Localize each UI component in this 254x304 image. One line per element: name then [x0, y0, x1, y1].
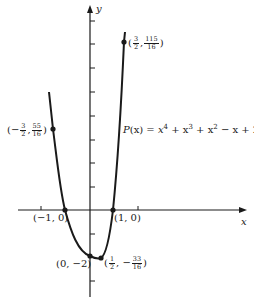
label-point-top: (32,11516) — [128, 36, 164, 50]
y-axis-arrow-icon — [87, 5, 93, 13]
point-top — [121, 39, 126, 44]
function-label: P(x) = x4 + x3 + x2 − x + 2 — [123, 124, 254, 135]
data-points — [50, 39, 126, 260]
label-point-min: (12, −3316) — [104, 256, 147, 270]
label-point-neg-one: (−1, 0) — [33, 213, 68, 223]
x-axis-label: x — [241, 217, 247, 227]
chart-figure: y x (32,11516) (−32,5516) P(x) = x4 + x3… — [0, 0, 254, 304]
function-curve — [49, 32, 125, 258]
y-ticks — [90, 21, 95, 281]
y-axis-label: y — [96, 4, 102, 14]
label-point-zero: (0, −2) — [56, 259, 91, 269]
x-axis-arrow-icon — [239, 207, 247, 213]
point-min — [98, 255, 103, 260]
point-left — [50, 126, 55, 131]
label-point-one: (1, 0) — [114, 213, 141, 223]
label-point-left: (−32,5516) — [7, 123, 47, 137]
